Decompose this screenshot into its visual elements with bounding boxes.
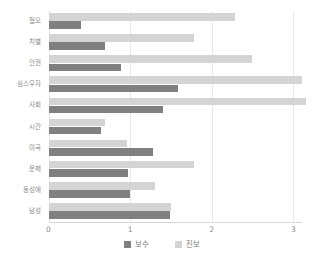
x-axis-tick-label: 1	[128, 224, 133, 236]
bar-conservative[interactable]	[49, 21, 82, 29]
legend-swatch-icon	[124, 241, 131, 248]
y-axis-tick-label: 시간	[0, 117, 45, 138]
bar-conservative[interactable]	[49, 148, 153, 156]
bar-progressive[interactable]	[49, 98, 307, 106]
bar-row	[49, 159, 302, 180]
legend-label: 보수	[135, 240, 149, 249]
bar-progressive[interactable]	[49, 182, 156, 190]
bar-row	[49, 74, 302, 95]
legend-item[interactable]: 보수	[124, 240, 149, 249]
x-axis-tick-label: 3	[291, 224, 296, 236]
y-axis-tick-label: 미국	[0, 138, 45, 159]
bar-rows	[49, 11, 302, 222]
x-axis-tick-label: 0	[46, 224, 51, 236]
bar-conservative[interactable]	[49, 64, 122, 72]
bar-row	[49, 32, 302, 53]
y-axis-tick-label: 혐오	[0, 11, 45, 32]
y-axis-tick-label: 치별	[0, 32, 45, 53]
bar-progressive[interactable]	[49, 203, 171, 211]
bar-row	[49, 95, 302, 116]
bar-conservative[interactable]	[49, 127, 101, 135]
bar-conservative[interactable]	[49, 190, 131, 198]
legend-label: 진보	[186, 240, 200, 249]
bar-conservative[interactable]	[49, 85, 179, 93]
legend-swatch-icon	[175, 241, 182, 248]
bar-row	[49, 180, 302, 201]
bar-conservative[interactable]	[49, 42, 105, 50]
bar-progressive[interactable]	[49, 34, 194, 42]
x-axis-line	[49, 222, 302, 223]
bar-conservative[interactable]	[49, 106, 163, 114]
bar-progressive[interactable]	[49, 55, 252, 63]
bar-conservative[interactable]	[49, 169, 128, 177]
bar-row	[49, 201, 302, 222]
bar-progressive[interactable]	[49, 76, 303, 84]
bar-progressive[interactable]	[49, 161, 194, 169]
bar-row	[49, 53, 302, 74]
y-axis-tick-label: 남성	[0, 201, 45, 222]
y-axis-tick-label: 인권	[0, 53, 45, 74]
x-axis-labels: 0123	[0, 224, 324, 238]
bar-progressive[interactable]	[49, 119, 105, 127]
bar-row	[49, 11, 302, 32]
y-axis-tick-label: 사회	[0, 95, 45, 116]
bar-row	[49, 117, 302, 138]
chart-legend: 보수진보	[0, 240, 324, 249]
x-axis-tick-label: 2	[209, 224, 214, 236]
legend-item[interactable]: 진보	[175, 240, 200, 249]
y-axis-tick-label: 문제	[0, 159, 45, 180]
bar-progressive[interactable]	[49, 13, 236, 21]
y-axis-tick-label: 동성애	[0, 180, 45, 201]
bar-chart: 혐오치별인권심스우자사회시간미국문제동성애남성 0123 보수진보	[0, 0, 324, 259]
y-axis-labels: 혐오치별인권심스우자사회시간미국문제동성애남성	[0, 11, 45, 222]
y-axis-tick-label: 심스우자	[0, 74, 45, 95]
bar-conservative[interactable]	[49, 211, 171, 219]
bar-row	[49, 138, 302, 159]
plot-area	[49, 11, 302, 222]
bar-progressive[interactable]	[49, 140, 127, 148]
